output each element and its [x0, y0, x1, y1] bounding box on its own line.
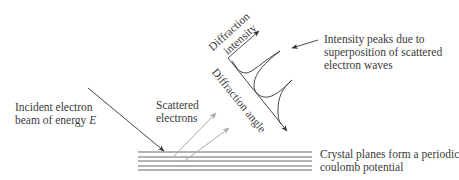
incident-label-line2: beam of energy E [15, 114, 96, 127]
incident-beam-label: Incident electron beam of energy E [15, 101, 96, 127]
peaks-label-line1: Intensity peaks due to [324, 33, 442, 46]
peaks-label-line2: superposition of scattered [324, 46, 442, 59]
incident-beam-arrow [88, 88, 164, 151]
crystal-label-line2: coulomb potential [320, 161, 459, 174]
scattered-label-line2: electrons [156, 112, 199, 125]
crystal-planes-label: Crystal planes form a periodic coulomb p… [320, 148, 459, 174]
crystal-planes [138, 152, 312, 170]
energy-symbol: E [89, 114, 96, 126]
intensity-peaks-label: Intensity peaks due to superposition of … [324, 33, 442, 72]
peaks-annotation-arrow [292, 40, 318, 48]
scattered-electrons-label: Scattered electrons [156, 99, 199, 125]
peaks-label-line3: electron waves [324, 59, 442, 72]
scattered-label-line1: Scattered [156, 99, 199, 112]
incident-label-line1: Incident electron [15, 101, 96, 114]
crystal-label-line1: Crystal planes form a periodic [320, 148, 459, 161]
incident-label-text: beam of energy [15, 114, 89, 126]
